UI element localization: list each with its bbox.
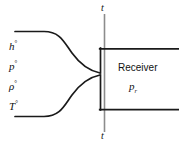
degree-symbol-rho: ° — [14, 79, 17, 87]
label-stagnation-pressure: p° — [9, 60, 17, 72]
degree-symbol-T: ° — [15, 99, 18, 107]
degree-symbol-h: ° — [15, 39, 18, 47]
receiver-pressure-label: pr — [129, 81, 137, 95]
diagram-canvas — [0, 0, 179, 146]
label-stagnation-temperature: T° — [9, 100, 18, 112]
degree-symbol-p: ° — [15, 59, 18, 67]
lower-nozzle-wall-curve — [15, 75, 100, 117]
nozzle-receiver-diagram: h° p° ρ° T° t t Receiver pr — [0, 0, 179, 146]
receiver-label: Receiver — [118, 63, 157, 73]
label-stagnation-enthalpy: h° — [9, 40, 17, 52]
label-stagnation-density: ρ° — [9, 80, 17, 92]
section-label-t-bottom: t — [101, 131, 104, 141]
section-label-t-top: t — [101, 3, 104, 13]
upper-nozzle-wall-curve — [15, 32, 100, 74]
subscript-r: r — [135, 87, 138, 94]
